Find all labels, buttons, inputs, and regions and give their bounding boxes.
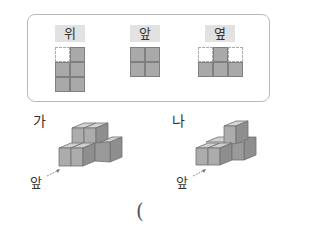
filled-cell: [213, 47, 228, 62]
filled-cell: [70, 77, 85, 92]
filled-cell: [198, 62, 213, 77]
front-label-ga: 앞: [30, 172, 42, 191]
cube-structure-ga: [55, 120, 135, 175]
top-view-grid: [55, 47, 85, 92]
filled-cell: [70, 62, 85, 77]
side-view-grid: [198, 47, 243, 77]
filled-cell: [55, 62, 70, 77]
answer-open-paren: (: [136, 199, 144, 223]
empty-cell: [55, 47, 70, 62]
empty-cell: [228, 47, 243, 62]
front-view-grid: [130, 47, 160, 77]
filled-cell: [130, 47, 145, 62]
filled-cell: [130, 62, 145, 77]
front-view-label: 앞: [130, 25, 160, 42]
filled-cell: [70, 47, 85, 62]
front-label-na: 앞: [176, 172, 188, 191]
filled-cell: [228, 62, 243, 77]
filled-cell: [145, 47, 160, 62]
arrow-icon: [46, 168, 62, 178]
filled-cell: [145, 62, 160, 77]
cube-structure-na: [194, 120, 274, 175]
filled-cell: [213, 62, 228, 77]
figure-label-na: 나: [172, 110, 185, 130]
side-view-label: 옆: [205, 25, 235, 42]
arrow-icon: [192, 168, 208, 178]
filled-cell: [55, 77, 70, 92]
figure-label-ga: 가: [33, 110, 46, 130]
empty-cell: [198, 47, 213, 62]
top-view-label: 위: [55, 25, 85, 42]
